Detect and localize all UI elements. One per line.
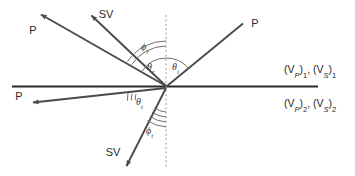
diagram-canvas: P SV P P SV ϕr θr θi θt ϕt (VP)1, (VS)1 … xyxy=(0,0,355,176)
upper-vs-index: 1 xyxy=(332,71,336,80)
ray-label-incident-p: P xyxy=(251,17,258,29)
angle-label-theta-i: θi xyxy=(172,61,179,76)
upper-vs-open: (V xyxy=(313,63,324,75)
lower-vp-open: (V xyxy=(284,97,295,109)
upper-vp-open: (V xyxy=(284,63,295,75)
ray-incident-p xyxy=(167,24,243,87)
arc-theta-i xyxy=(166,58,189,69)
medium-label-upper: (VP)1, (VS)1 xyxy=(284,63,336,80)
lower-vs-index: 2 xyxy=(332,105,336,114)
angle-label-theta-r: θr xyxy=(147,61,155,76)
angle-label-phi-t: ϕt xyxy=(146,125,154,140)
ray-label-transmitted-sv: SV xyxy=(106,146,121,158)
angle-subscript-theta-r: r xyxy=(152,68,155,76)
angle-subscript-theta-t: t xyxy=(141,103,144,111)
angle-subscript-phi-r: r xyxy=(146,48,149,56)
ray-transmitted-p xyxy=(33,88,166,103)
ray-label-reflected-p: P xyxy=(29,24,36,36)
ray-label-transmitted-p: P xyxy=(15,90,22,102)
lower-vs-open: (V xyxy=(313,97,324,109)
angle-subscript-phi-t: t xyxy=(151,132,154,140)
ray-label-reflected-sv: SV xyxy=(99,8,114,20)
arc-theta-t-mid xyxy=(131,94,132,101)
angle-subscript-theta-i: i xyxy=(177,68,179,76)
angle-label-theta-t: θt xyxy=(136,96,144,111)
arc-phi-t-1 xyxy=(154,108,166,112)
seismic-interface-diagram: P SV P P SV ϕr θr θi θt ϕt (VP)1, (VS)1 … xyxy=(0,0,355,176)
medium-label-lower: (VP)2, (VS)2 xyxy=(284,97,336,114)
arc-phi-t-2 xyxy=(152,112,166,117)
